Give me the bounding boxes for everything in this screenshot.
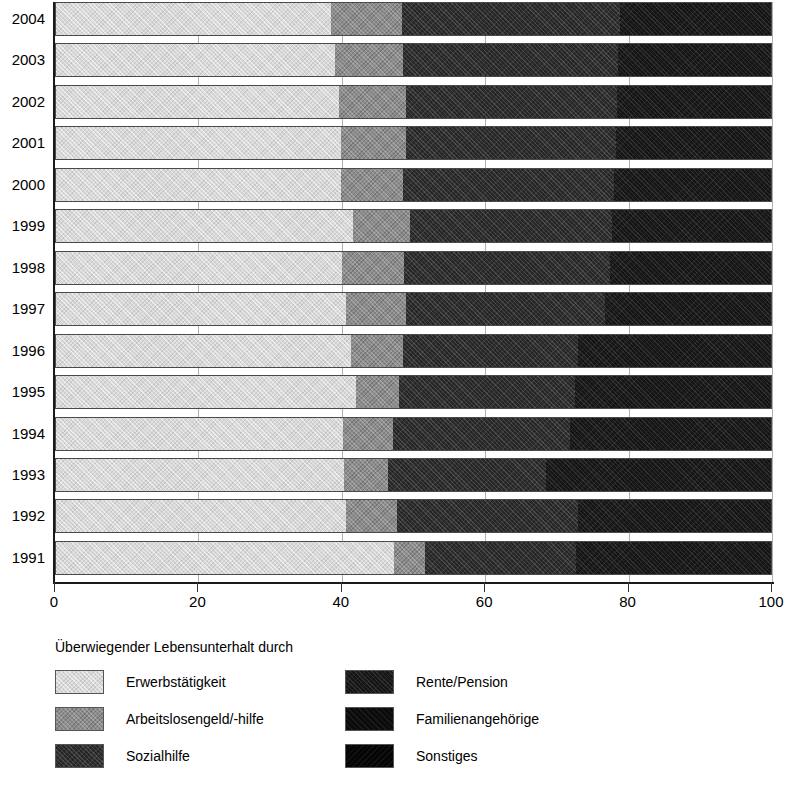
stacked-bar-1996 [55, 334, 772, 368]
bar-segment-erwerbstaetigkeit [56, 127, 341, 159]
swatch-erwerbstaetigkeit [55, 670, 104, 694]
bar-segment-erwerbstaetigkeit [56, 210, 353, 242]
bar-segment-sozialhilfe [403, 169, 613, 201]
stacked-bar-1997 [55, 292, 772, 326]
bar-segment-sozialhilfe [406, 293, 605, 325]
bar-segment-arbeitslosengeld [346, 500, 397, 532]
swatch-rente-pension [345, 670, 394, 694]
stacked-bar-2003 [55, 43, 772, 77]
bar-segment-sozialhilfe [406, 86, 617, 118]
bar-segment-rente-pension [546, 459, 771, 491]
bar-segment-sozialhilfe [403, 335, 577, 367]
bar-segment-rente-pension [617, 86, 771, 118]
bar-segment-erwerbstaetigkeit [56, 459, 344, 491]
bar-segment-rente-pension [620, 3, 771, 35]
swatch-sonstiges [345, 744, 394, 768]
stacked-bar-2000 [55, 168, 772, 202]
bar-segment-erwerbstaetigkeit [56, 500, 346, 532]
bar-segment-rente-pension [616, 127, 771, 159]
gridline-100 [772, 2, 773, 582]
bar-segment-sozialhilfe [425, 542, 576, 574]
bar-segment-rente-pension [578, 500, 771, 532]
bar-segment-arbeitslosengeld [339, 86, 405, 118]
x-tick-100 [771, 582, 772, 592]
y-tick-label-2003: 2003 [0, 52, 45, 67]
bar-segment-arbeitslosengeld [356, 376, 399, 408]
bar-segment-sozialhilfe [406, 127, 616, 159]
bar-segment-erwerbstaetigkeit [56, 293, 346, 325]
bar-segment-sozialhilfe [399, 376, 575, 408]
y-tick-label-1994: 1994 [0, 426, 45, 441]
legend-label-erwerbstaetigkeit: Erwerbstätigkeit [126, 674, 226, 690]
x-tick-60 [484, 582, 485, 592]
stacked-bar-2002 [55, 85, 772, 119]
y-tick-label-1993: 1993 [0, 467, 45, 482]
bar-segment-sozialhilfe [397, 500, 578, 532]
legend-item-sonstiges: Sonstiges [345, 744, 477, 768]
stacked-bar-chart: 2004200320022001200019991998199719961995… [0, 0, 793, 786]
plot-area [53, 2, 772, 582]
bar-segment-arbeitslosengeld [342, 252, 404, 284]
legend-label-rente-pension: Rente/Pension [416, 674, 508, 690]
bar-segment-rente-pension [614, 169, 771, 201]
stacked-bar-2001 [55, 126, 772, 160]
bar-segment-sozialhilfe [393, 418, 570, 450]
bar-segment-rente-pension [575, 376, 771, 408]
x-tick-label-20: 20 [167, 594, 227, 610]
x-tick-label-80: 80 [598, 594, 658, 610]
bar-segment-arbeitslosengeld [351, 335, 403, 367]
y-tick-label-1991: 1991 [0, 550, 45, 565]
x-tick-20 [197, 582, 198, 592]
x-tick-label-100: 100 [741, 594, 793, 610]
legend-label-arbeitslosengeld: Arbeitslosengeld/-hilfe [126, 711, 264, 727]
x-axis-line [53, 582, 774, 584]
legend-label-sonstiges: Sonstiges [416, 748, 477, 764]
y-tick-label-1995: 1995 [0, 384, 45, 399]
legend-title: Überwiegender Lebensunterhalt durch [55, 638, 785, 656]
bar-segment-arbeitslosengeld [353, 210, 409, 242]
bar-segment-sozialhilfe [402, 3, 620, 35]
y-tick-label-1992: 1992 [0, 508, 45, 523]
legend-item-sozialhilfe: Sozialhilfe [55, 744, 190, 768]
bar-segment-sozialhilfe [388, 459, 546, 491]
x-tick-80 [628, 582, 629, 592]
x-tick-label-60: 60 [454, 594, 514, 610]
bar-segment-rente-pension [570, 418, 771, 450]
bar-segment-erwerbstaetigkeit [56, 335, 351, 367]
legend-item-erwerbstaetigkeit: Erwerbstätigkeit [55, 670, 226, 694]
bar-segment-erwerbstaetigkeit [56, 418, 343, 450]
y-tick-label-2001: 2001 [0, 135, 45, 150]
bar-segment-erwerbstaetigkeit [56, 252, 342, 284]
y-tick-label-2000: 2000 [0, 177, 45, 192]
y-tick-label-2004: 2004 [0, 11, 45, 26]
y-tick-label-2002: 2002 [0, 94, 45, 109]
bar-segment-erwerbstaetigkeit [56, 86, 339, 118]
stacked-bar-1993 [55, 458, 772, 492]
bar-segment-rente-pension [578, 335, 771, 367]
legend-label-familienangehoerige: Familienangehörige [416, 711, 539, 727]
bar-segment-erwerbstaetigkeit [56, 169, 341, 201]
x-tick-0 [54, 582, 55, 592]
x-tick-40 [341, 582, 342, 592]
legend-items: ErwerbstätigkeitArbeitslosengeld/-hilfeS… [55, 670, 785, 766]
bar-segment-rente-pension [605, 293, 771, 325]
bar-segment-arbeitslosengeld [341, 127, 405, 159]
bar-segment-sozialhilfe [404, 252, 610, 284]
swatch-arbeitslosengeld [55, 707, 104, 731]
legend-item-arbeitslosengeld: Arbeitslosengeld/-hilfe [55, 707, 264, 731]
bar-segment-arbeitslosengeld [335, 44, 404, 76]
y-tick-label-1999: 1999 [0, 218, 45, 233]
bar-segment-arbeitslosengeld [343, 418, 393, 450]
y-tick-label-1997: 1997 [0, 301, 45, 316]
bar-segment-rente-pension [576, 542, 771, 574]
y-tick-label-1996: 1996 [0, 343, 45, 358]
stacked-bar-1999 [55, 209, 772, 243]
bar-segment-sozialhilfe [403, 44, 618, 76]
swatch-familienangehoerige [345, 707, 394, 731]
bar-segment-erwerbstaetigkeit [56, 542, 394, 574]
y-tick-label-1998: 1998 [0, 260, 45, 275]
bar-segment-arbeitslosengeld [344, 459, 388, 491]
bar-segment-rente-pension [612, 210, 771, 242]
bar-segment-arbeitslosengeld [331, 3, 403, 35]
bar-segment-rente-pension [610, 252, 771, 284]
